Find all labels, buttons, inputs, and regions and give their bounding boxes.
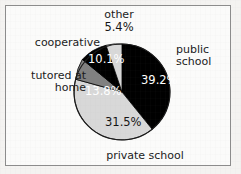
slice-value-cooperative: 10.1% <box>88 53 125 65</box>
slice-label-cooperative: cooperative <box>24 37 100 49</box>
slice-label-public-school-line2: school <box>176 56 232 68</box>
slice-value-public-school: 39.2% <box>141 74 178 86</box>
slice-label-tutored-at-home-line2: home <box>12 82 86 94</box>
slice-value-tutored-at-home: 13.8% <box>85 85 122 97</box>
slice-label-private-school: private school <box>95 150 195 162</box>
slice-value-other: 5.4% <box>94 21 144 33</box>
slice-value-private-school: 31.5% <box>105 116 142 128</box>
